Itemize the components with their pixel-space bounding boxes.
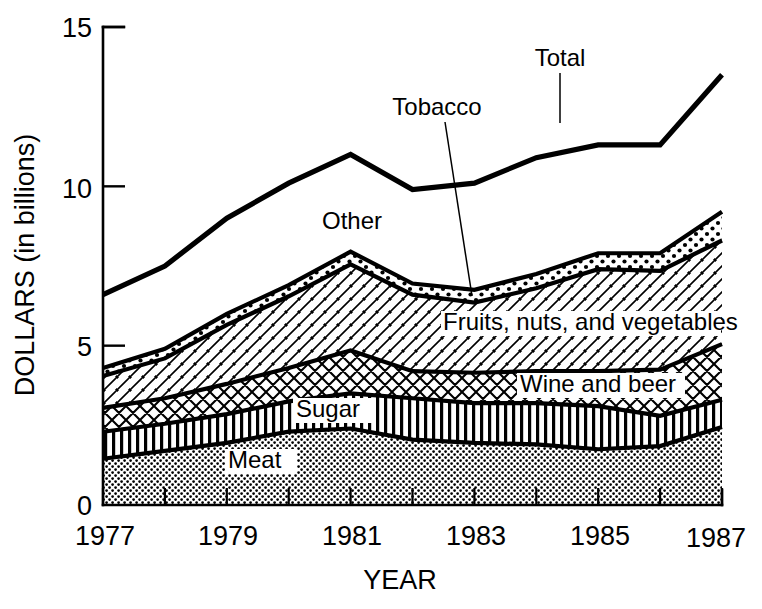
series-label-sugar: Sugar	[296, 395, 360, 422]
chart-svg: 15 10 5 0 1977 1979 1981 1983 1985 1987 …	[0, 0, 762, 609]
x-tick-label-1987: 1987	[686, 523, 746, 553]
series-label-meat: Meat	[228, 446, 282, 473]
y-tick-label-10: 10	[62, 174, 92, 204]
x-tick-label-1977: 1977	[75, 521, 135, 551]
y-tick-label-0: 0	[77, 491, 92, 521]
x-tick-label-1985: 1985	[570, 521, 630, 551]
series-label-fruits: Fruits, nuts, and vegetables	[443, 308, 738, 335]
series-label-tobacco: Tobacco	[392, 93, 481, 120]
x-tick-label-1981: 1981	[322, 521, 382, 551]
x-tick-label-1979: 1979	[198, 521, 258, 551]
y-axis-title: DOLLARS (in billions)	[10, 134, 40, 397]
series-label-wine: Wine and beer	[520, 370, 676, 397]
x-axis-title: YEAR	[363, 565, 437, 595]
y-tick-label-5: 5	[77, 332, 92, 362]
series-label-total: Total	[535, 44, 586, 71]
stacked-area-chart: 15 10 5 0 1977 1979 1981 1983 1985 1987 …	[0, 0, 762, 609]
series-label-other: Other	[322, 207, 382, 234]
y-tick-label-15: 15	[62, 13, 92, 43]
x-tick-label-1983: 1983	[446, 521, 506, 551]
